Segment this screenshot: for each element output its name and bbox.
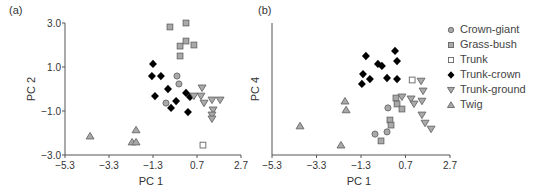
circle-marker: [372, 131, 378, 137]
diamond-marker: [366, 75, 374, 83]
triangle-down-marker: [198, 85, 206, 91]
triangle-down-marker: [447, 87, 454, 93]
square-filled-marker: [448, 42, 453, 47]
triangle-up-marker: [132, 126, 140, 132]
series-trunk-ground: [190, 85, 224, 123]
series-grass-bush: [378, 95, 405, 144]
triangle-down-marker: [208, 116, 216, 122]
triangle-down-marker: [419, 88, 427, 94]
triangle-up-marker: [341, 98, 349, 104]
filled-square-marker-icon: [446, 40, 456, 50]
y-tick-label: 3.0: [47, 18, 61, 29]
circle-marker: [176, 81, 182, 87]
x-tick-label: 2.7: [234, 160, 248, 171]
square-filled-marker: [191, 42, 197, 48]
diamond-marker: [393, 75, 401, 83]
x-tick-label: 0.7: [190, 160, 204, 171]
legend-item-trunk: Trunk: [446, 52, 526, 67]
panel-label: (a): [9, 4, 22, 16]
square-filled-marker: [167, 24, 173, 30]
circle-marker: [174, 73, 180, 79]
y-tick-label: −3.0: [41, 150, 61, 161]
series-trunk: [409, 77, 415, 83]
series-grass-bush: [167, 20, 197, 59]
diamond-marker: [362, 52, 370, 60]
series-twig: [86, 126, 140, 145]
diamond-marker: [164, 85, 172, 93]
triangle-down-marker: [208, 97, 216, 103]
triangle-up-marker: [296, 122, 304, 128]
x-axis-label: PC 1: [347, 175, 371, 187]
down-triangle-marker-icon: [446, 85, 456, 95]
circle-marker: [448, 27, 453, 32]
diamond-marker: [151, 92, 159, 100]
square-filled-marker: [183, 20, 189, 26]
square-filled-marker: [183, 38, 189, 44]
up-triangle-marker-icon: [446, 100, 456, 110]
triangle-down-marker: [197, 93, 205, 99]
diamond-marker: [358, 80, 366, 88]
triangle-down-marker: [200, 100, 208, 106]
diamond-marker: [172, 97, 180, 105]
series-trunk-crown: [148, 60, 194, 116]
square-filled-marker: [393, 95, 399, 101]
triangle-down-marker: [410, 101, 418, 107]
diamond-marker: [149, 60, 157, 68]
circle-marker-icon: [446, 25, 456, 35]
legend-item-trunk-crown: Trunk-crown: [446, 67, 526, 82]
diamond-marker: [447, 71, 454, 78]
diamond-marker: [184, 108, 192, 116]
x-tick-label: 2.7: [443, 160, 457, 171]
square-filled-marker: [399, 106, 405, 112]
y-axis-label: PC 4: [249, 77, 261, 101]
x-tick-label: −5.3: [262, 160, 282, 171]
triangle-down-marker: [417, 78, 425, 84]
circle-marker: [385, 105, 391, 111]
x-tick-label: −5.3: [55, 160, 75, 171]
triangle-down-marker: [418, 98, 426, 104]
triangle-up-marker: [342, 106, 350, 112]
legend-item-grass-bush: Grass-bush: [446, 37, 526, 52]
triangle-down-marker: [418, 112, 426, 118]
x-axis-label: PC 1: [139, 175, 163, 187]
x-tick-label: −1.3: [351, 160, 371, 171]
x-tick-label: 0.7: [399, 160, 413, 171]
panel-label: (b): [258, 4, 271, 16]
diamond-marker-icon: [446, 70, 456, 80]
triangle-up-marker: [337, 142, 345, 148]
circle-marker: [163, 100, 169, 106]
series-trunk: [200, 142, 206, 148]
y-tick-label: −1.0: [41, 106, 61, 117]
legend-label: Twig: [460, 97, 483, 112]
diamond-marker: [359, 70, 367, 78]
legend: Crown-giant Grass-bush Trunk Trunk-crown…: [446, 22, 526, 112]
series-trunk-crown: [358, 47, 401, 88]
open-square-marker-icon: [446, 55, 456, 65]
legend-label: Grass-bush: [460, 37, 517, 52]
diamond-marker: [148, 72, 156, 80]
triangle-up-marker: [447, 101, 454, 107]
square-filled-marker: [388, 122, 394, 128]
triangle-down-marker: [427, 126, 435, 132]
square-open-marker: [448, 57, 453, 62]
x-tick-label: −3.3: [307, 160, 327, 171]
x-tick-label: −1.3: [143, 160, 163, 171]
triangle-down-marker: [216, 97, 224, 103]
series-twig: [296, 98, 350, 148]
legend-label: Trunk-crown: [460, 67, 521, 82]
series-trunk-ground: [398, 78, 435, 132]
legend-item-crown-giant: Crown-giant: [446, 22, 526, 37]
diamond-marker: [157, 72, 165, 80]
diamond-marker: [391, 47, 399, 55]
panel-a: (a)−5.3−3.3−1.30.72.73.01.0−1.0−3.0PC 1P…: [9, 4, 248, 187]
square-open-marker: [409, 77, 415, 83]
legend-item-trunk-ground: Trunk-ground: [446, 82, 526, 97]
square-filled-marker: [177, 43, 183, 49]
y-axis-label: PC 2: [25, 77, 37, 101]
legend-label: Trunk-ground: [460, 82, 526, 97]
square-filled-marker: [177, 53, 183, 59]
diamond-marker: [383, 74, 391, 82]
panel-b: (b)−5.3−3.3−1.30.72.7PC 1PC 4: [249, 4, 457, 187]
triangle-up-marker: [86, 132, 94, 138]
circle-marker: [384, 129, 390, 135]
